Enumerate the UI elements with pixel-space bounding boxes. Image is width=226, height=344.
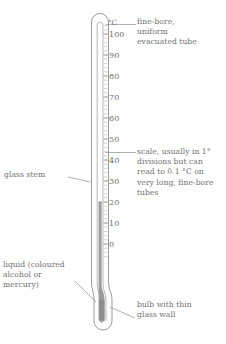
annotation-scale-divisions: scale, usually in 1° divisions but can r… bbox=[137, 147, 225, 198]
annotation-fine-bore: fine-bore, uniform evacuated tube bbox=[137, 17, 223, 48]
annotation-liquid: liquid (coloured alcohol or mercury) bbox=[3, 260, 77, 291]
scale-number: 10 bbox=[109, 219, 119, 228]
scale-number: 90 bbox=[109, 51, 119, 60]
annotation-glass-stem: glass stem bbox=[4, 170, 68, 180]
scale-number: 100 bbox=[109, 30, 124, 39]
scale-number: 70 bbox=[109, 93, 119, 102]
leader-line-glass-stem bbox=[68, 177, 91, 182]
scale-number: 40 bbox=[109, 156, 119, 165]
bulb-liquid bbox=[99, 300, 104, 320]
scale-unit-label: °C bbox=[108, 18, 117, 27]
scale-number: 60 bbox=[109, 114, 119, 123]
scale-number: 20 bbox=[109, 198, 119, 207]
annotation-bulb: bulb with thin glass wall bbox=[137, 300, 223, 320]
scale-number: 50 bbox=[109, 135, 119, 144]
leader-line-bulb bbox=[110, 307, 135, 318]
scale-number: 80 bbox=[109, 72, 119, 81]
glass-stem-outline bbox=[92, 14, 113, 331]
thermometer-figure: °C 1009080706050403020100 fine-bore, uni… bbox=[0, 0, 226, 344]
scale-number: 30 bbox=[109, 177, 119, 186]
scale-number: 0 bbox=[109, 240, 114, 249]
